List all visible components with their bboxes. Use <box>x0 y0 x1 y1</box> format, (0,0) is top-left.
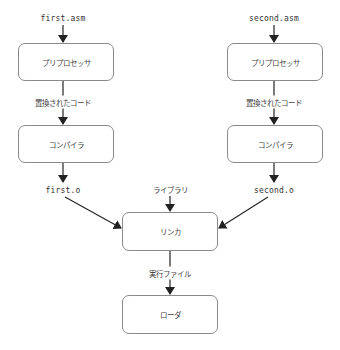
compiler-right-node: コンパイラ <box>227 125 323 163</box>
preprocessor-left-label: プリプロセッサ <box>42 57 91 68</box>
loader-label: ローダ <box>160 309 181 320</box>
preprocessor-right-label: プリプロセッサ <box>251 57 300 68</box>
linker-label: リンカ <box>160 226 181 237</box>
replaced-code-left-label: 置換されたコード <box>34 96 92 109</box>
compiler-right-label: コンパイラ <box>258 139 293 150</box>
loader-node: ローダ <box>122 295 218 334</box>
preprocessor-right-node: プリプロセッサ <box>227 43 323 81</box>
compiler-left-node: コンパイラ <box>18 125 114 163</box>
linker-node: リンカ <box>122 212 218 251</box>
library-label: ライブラリ <box>152 183 189 196</box>
compiler-left-label: コンパイラ <box>49 139 84 150</box>
first-o-label: first.o <box>44 185 81 196</box>
preprocessor-left-node: プリプロセッサ <box>18 43 114 81</box>
arrow-first-o-to-linker <box>65 197 121 228</box>
executable-label: 実行ファイル <box>148 267 192 280</box>
second-asm-label: second.asm <box>248 13 300 24</box>
arrow-second-o-to-linker <box>219 197 268 228</box>
first-asm-label: first.asm <box>39 13 86 24</box>
replaced-code-right-label: 置換されたコード <box>245 96 303 109</box>
second-o-label: second.o <box>253 185 295 196</box>
